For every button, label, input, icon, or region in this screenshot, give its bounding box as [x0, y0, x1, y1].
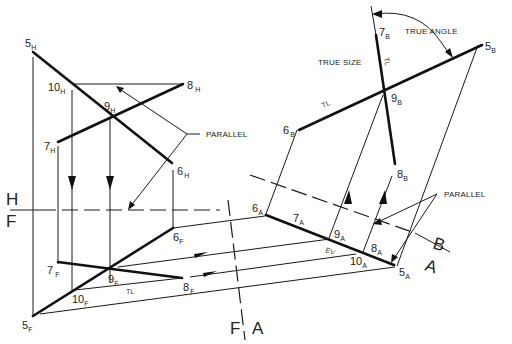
point-6b-label: 6B	[283, 124, 295, 138]
projectors-f-a	[40, 216, 395, 314]
parallel-callout-2: PARALLEL	[373, 190, 486, 263]
line-5f-6f	[33, 228, 173, 316]
projectors-a-b	[266, 45, 478, 266]
line-7h-8h	[58, 84, 183, 142]
point-5f-label: 5F	[22, 319, 32, 333]
point-5h-label: 5H	[25, 37, 36, 51]
point-8a-label: 8A	[371, 242, 382, 256]
point-5b-label: 5B	[485, 40, 496, 54]
point-10a-label: 10A	[350, 255, 367, 269]
point-10h-label: 10H	[48, 81, 65, 95]
projector-9-ab	[329, 95, 383, 238]
projector-6-fa	[173, 216, 265, 228]
true-angle-label: TRUE ANGLE	[405, 27, 458, 36]
projector-8-ab	[363, 176, 392, 252]
line-7f-8f	[58, 262, 182, 278]
projector-6-ab	[266, 130, 297, 214]
tl-label-b2: TL	[383, 57, 391, 66]
point-9f-label: 9F	[108, 273, 118, 287]
fold-label-a: A	[252, 319, 264, 338]
parallel-label-1: PARALLEL	[206, 130, 248, 139]
fold-label-b: B	[431, 234, 448, 256]
projector-8-fa	[190, 254, 356, 277]
point-9a-label: 9A	[334, 228, 345, 242]
fold-label-f2: F	[230, 319, 240, 338]
point-8f-label: 8F	[183, 281, 194, 295]
point-6f-label: 6F	[173, 231, 183, 245]
point-6h-label: 6H	[177, 165, 189, 179]
point-10f-label: 10F	[72, 293, 89, 307]
arrow-icon	[391, 254, 398, 263]
point-7h-label: 7H	[44, 140, 55, 154]
fold-line-h-f: H F	[6, 190, 220, 231]
line-7b-extension	[371, 6, 376, 35]
arrow-down-icon	[106, 176, 114, 190]
point-7a-label: 7A	[293, 212, 304, 226]
point-6a-label: 6A	[252, 202, 263, 216]
fold-line-f-a: F A	[228, 200, 264, 340]
fold-label-f: F	[6, 212, 16, 231]
point-7f-label: 7F	[47, 264, 59, 278]
projector-5-fa	[40, 267, 395, 314]
point-8h-label: 8H	[187, 79, 200, 93]
arrow-up-icon	[344, 190, 352, 204]
arrow-down-icon	[68, 176, 76, 190]
arrow-icon	[116, 86, 124, 93]
point-8b-label: 8B	[397, 168, 408, 182]
projectors-h-f	[33, 57, 173, 316]
parallel-label-2: PARALLEL	[444, 190, 486, 199]
true-size-label: TRUE SIZE	[318, 58, 362, 67]
arrow-icon	[372, 10, 382, 18]
tl-label-f: TL	[126, 288, 134, 295]
point-5a-label: 5A	[399, 266, 410, 280]
fold-label-h: H	[6, 190, 18, 209]
fold-label-a2: A	[423, 256, 440, 278]
point-9b-label: 9B	[391, 92, 402, 106]
point-7b-label: 7B	[379, 26, 390, 40]
point-9h-label: 9H	[104, 100, 115, 114]
tl-label-b1: TL	[320, 99, 330, 109]
ev-label: EV	[325, 246, 336, 256]
drawing-canvas: H F PARALLEL TL F A EV	[0, 0, 512, 344]
